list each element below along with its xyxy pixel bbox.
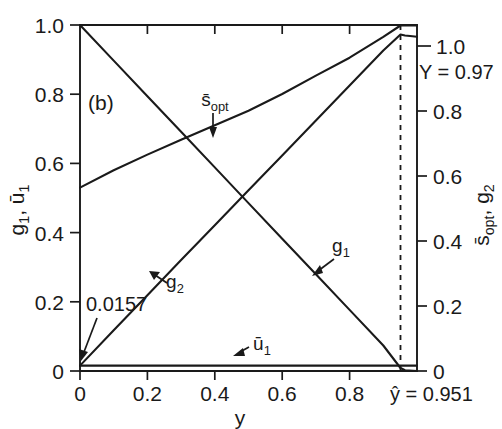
curve-label-u1: ū1 bbox=[253, 333, 271, 358]
annotation-yhat: ŷ = 0.951 bbox=[390, 383, 473, 405]
y-right-title-g: , g bbox=[470, 192, 493, 215]
y-left-tick-04: 0.4 bbox=[35, 222, 65, 245]
annotation-Y-value: Y = 0.97 bbox=[419, 61, 494, 83]
y-right-title-s-sub: opt bbox=[481, 215, 497, 235]
label-g1-group: g1 bbox=[312, 235, 350, 276]
curve-label-sopt-base: s̄ bbox=[201, 89, 211, 110]
label-u1-group: ū1 bbox=[233, 333, 271, 358]
chart-figure: 1.0 0.8 0.6 0.4 0.2 0 1.0 0.8 0.6 0.4 0.… bbox=[0, 0, 502, 429]
svg-text:g1, ū1: g1, ū1 bbox=[5, 184, 32, 235]
curve-sopt bbox=[80, 26, 417, 188]
x-tick-04: 0.4 bbox=[200, 382, 230, 405]
curve-label-g1-sub: 1 bbox=[343, 245, 350, 260]
curve-label-sopt: s̄opt bbox=[201, 89, 229, 114]
curve-label-u1-base: ū bbox=[253, 333, 264, 354]
panel-label: (b) bbox=[88, 91, 114, 114]
annotation-yhat-value: = 0.951 bbox=[400, 383, 473, 405]
bottom-axis-tick-labels: 0 0.2 0.4 0.6 0.8 bbox=[74, 382, 364, 405]
curve-label-g2-base: g bbox=[166, 271, 177, 292]
y-left-tick-1: 1.0 bbox=[35, 14, 64, 37]
annotation-intercept-group: 0.0157 bbox=[79, 293, 147, 361]
annotation-intercept-text: 0.0157 bbox=[86, 293, 147, 315]
curve-label-sopt-sub: opt bbox=[211, 99, 229, 114]
y-right-tick-02: 0.2 bbox=[433, 295, 462, 318]
annotation-yhat-symbol: ŷ bbox=[390, 383, 400, 405]
y-left-tick-02: 0.2 bbox=[35, 291, 64, 314]
curve-g2 bbox=[80, 35, 417, 366]
curve-label-g1-base: g bbox=[332, 235, 343, 256]
x-tick-06: 0.6 bbox=[268, 382, 297, 405]
y-axis-title-right: s̄opt, g2 bbox=[470, 184, 497, 246]
y-right-title-g-sub: 2 bbox=[481, 184, 497, 192]
y-left-tick-08: 0.8 bbox=[35, 83, 64, 106]
curve-label-u1-sub: 1 bbox=[264, 343, 271, 358]
top-axis-ticks bbox=[147, 25, 349, 34]
y-left-tick-06: 0.6 bbox=[35, 152, 64, 175]
arrow-head-g2 bbox=[149, 271, 160, 280]
left-axis-ticks bbox=[70, 25, 80, 371]
arrow-head-u1 bbox=[233, 348, 245, 356]
y-left-title-u: , ū bbox=[5, 192, 28, 215]
x-tick-02: 0.2 bbox=[133, 382, 162, 405]
x-tick-0: 0 bbox=[74, 382, 86, 405]
label-g2-group: g2 bbox=[149, 271, 184, 296]
x-tick-08: 0.8 bbox=[335, 382, 364, 405]
y-right-tick-0: 0 bbox=[433, 360, 445, 383]
annotation-yhat-group: ŷ = 0.951 bbox=[390, 383, 473, 405]
left-axis-tick-labels: 1.0 0.8 0.6 0.4 0.2 0 bbox=[35, 14, 65, 383]
leader-line-intercept bbox=[84, 318, 97, 352]
y-left-title-g: g bbox=[5, 224, 28, 236]
chart-svg: 1.0 0.8 0.6 0.4 0.2 0 1.0 0.8 0.6 0.4 0.… bbox=[0, 0, 502, 429]
curve-label-g2-sub: 2 bbox=[177, 281, 184, 296]
y-left-tick-0: 0 bbox=[52, 360, 64, 383]
y-right-tick-04: 0.4 bbox=[433, 230, 463, 253]
y-right-tick-1: 1.0 bbox=[436, 35, 465, 58]
y-left-title-u-sub: 1 bbox=[16, 184, 32, 192]
y-right-tick-08: 0.8 bbox=[433, 100, 462, 123]
curve-g1 bbox=[80, 25, 417, 371]
x-axis-title: y bbox=[235, 406, 246, 429]
right-axis-tick-labels: 1.0 0.8 0.6 0.4 0.2 0 bbox=[433, 35, 465, 383]
label-sopt-group: s̄opt bbox=[201, 89, 229, 138]
right-axis-ticks bbox=[417, 46, 431, 371]
arrow-head-sopt bbox=[209, 127, 217, 138]
y-left-title-g-sub: 1 bbox=[16, 216, 32, 224]
y-right-tick-06: 0.6 bbox=[433, 165, 462, 188]
y-axis-title-left: g1, ū1 bbox=[5, 184, 32, 235]
svg-text:s̄opt, g2: s̄opt, g2 bbox=[470, 184, 497, 246]
curve-label-g1: g1 bbox=[332, 235, 350, 260]
bottom-axis-ticks bbox=[80, 371, 350, 380]
curve-label-g2: g2 bbox=[166, 271, 184, 296]
y-right-title-s: s̄ bbox=[470, 235, 493, 246]
x-axis-title-text: y bbox=[235, 406, 246, 429]
